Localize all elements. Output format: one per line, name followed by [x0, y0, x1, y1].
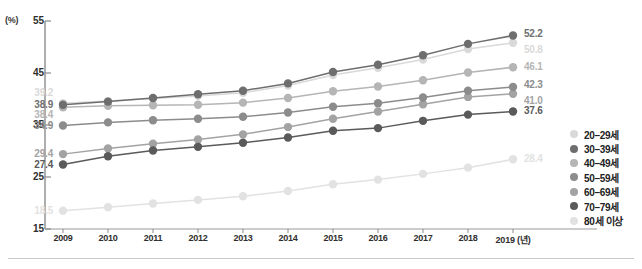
legend-color-swatch-icon: [570, 159, 578, 167]
series-start-value-label: 29.4: [17, 148, 53, 159]
data-point-marker: [419, 93, 427, 101]
footer-divider: [8, 258, 634, 259]
series-end-value-label: 50.8: [524, 44, 543, 55]
data-point-marker: [149, 199, 157, 207]
legend-item-label: 30–39세: [584, 141, 619, 156]
data-point-marker: [194, 90, 202, 98]
data-point-marker: [329, 180, 337, 188]
data-point-marker: [239, 192, 247, 200]
data-point-marker: [59, 150, 67, 158]
data-point-marker: [284, 79, 292, 87]
chart-plot-area: [0, 0, 642, 269]
data-point-marker: [104, 118, 112, 126]
data-point-marker: [194, 143, 202, 151]
series-start-value-label: 34.9: [17, 120, 53, 131]
legend-item-3[interactable]: 40–49세: [570, 156, 623, 170]
y-axis-tick-label: 45: [18, 67, 44, 78]
line-chart: (%) 5545352515 2009201020112012201320142…: [0, 0, 642, 269]
legend-item-label: 80세 이상: [584, 213, 623, 228]
data-point-marker: [509, 31, 517, 39]
data-point-marker: [239, 112, 247, 120]
data-point-marker: [329, 68, 337, 76]
legend-item-5[interactable]: 60–69세: [570, 185, 623, 199]
data-point-marker: [104, 144, 112, 152]
data-point-marker: [149, 94, 157, 102]
series-start-value-label: 39.2: [17, 87, 53, 98]
series-line: [63, 159, 513, 210]
series-start-value-label: 18.5: [17, 205, 53, 216]
legend-color-swatch-icon: [570, 173, 578, 181]
data-point-marker: [194, 101, 202, 109]
series-start-value-label: 27.4: [17, 159, 53, 170]
legend-color-swatch-icon: [570, 130, 578, 138]
series-end-value-label: 42.3: [524, 79, 543, 90]
data-point-marker: [59, 121, 67, 129]
data-point-marker: [194, 196, 202, 204]
data-point-marker: [419, 117, 427, 125]
series-end-value-label: 41.0: [524, 95, 543, 106]
legend-color-swatch-icon: [570, 145, 578, 153]
data-point-marker: [239, 130, 247, 138]
data-point-marker: [284, 133, 292, 141]
series-end-value-label: 37.6: [524, 105, 543, 116]
series-end-value-label: 46.1: [524, 61, 543, 72]
data-point-marker: [149, 101, 157, 109]
data-point-marker: [509, 155, 517, 163]
data-point-marker: [374, 124, 382, 132]
legend-item-6[interactable]: 70–79세: [570, 199, 623, 213]
data-point-marker: [374, 82, 382, 90]
legend-item-label: 40–49세: [584, 155, 619, 170]
legend-color-swatch-icon: [570, 188, 578, 196]
legend-item-label: 20–29세: [584, 127, 619, 142]
data-point-marker: [329, 87, 337, 95]
data-point-marker: [464, 163, 472, 171]
data-point-marker: [149, 146, 157, 154]
legend-item-label: 60–69세: [584, 184, 619, 199]
series-start-value-label: 38.9: [17, 99, 53, 110]
data-point-marker: [329, 115, 337, 123]
data-point-marker: [464, 40, 472, 48]
data-point-marker: [194, 115, 202, 123]
data-point-marker: [374, 99, 382, 107]
data-point-marker: [284, 187, 292, 195]
data-point-marker: [104, 203, 112, 211]
data-point-marker: [374, 107, 382, 115]
legend-item-7[interactable]: 80세 이상: [570, 213, 623, 227]
data-point-marker: [419, 76, 427, 84]
legend-item-label: 50–59세: [584, 170, 619, 185]
data-point-marker: [329, 103, 337, 111]
legend-item-4[interactable]: 50–59세: [570, 170, 623, 184]
legend-color-swatch-icon: [570, 202, 578, 210]
data-point-marker: [464, 86, 472, 94]
x-axis-tick-label: 2019 (년): [485, 233, 541, 246]
data-point-marker: [104, 152, 112, 160]
data-point-marker: [329, 127, 337, 135]
legend-item-2[interactable]: 30–39세: [570, 141, 623, 155]
data-point-marker: [239, 138, 247, 146]
data-point-marker: [419, 170, 427, 178]
data-point-marker: [509, 39, 517, 47]
data-point-marker: [509, 107, 517, 115]
data-point-marker: [464, 68, 472, 76]
series-end-value-label: 52.2: [524, 28, 543, 39]
data-point-marker: [374, 175, 382, 183]
chart-legend: 20–29세30–39세40–49세50–59세60–69세70–79세80세 …: [570, 127, 623, 228]
data-point-marker: [284, 108, 292, 116]
data-point-marker: [284, 123, 292, 131]
data-point-marker: [59, 160, 67, 168]
data-point-marker: [149, 116, 157, 124]
legend-item-label: 70–79세: [584, 199, 619, 214]
series-end-value-label: 28.4: [524, 153, 543, 164]
data-point-marker: [59, 207, 67, 215]
data-point-marker: [239, 86, 247, 94]
data-point-marker: [284, 94, 292, 102]
data-point-marker: [509, 83, 517, 91]
y-axis-tick-label: 25: [18, 171, 44, 182]
legend-item-1[interactable]: 20–29세: [570, 127, 623, 141]
data-point-marker: [59, 101, 67, 109]
data-point-marker: [194, 135, 202, 143]
y-axis-tick-label: 55: [18, 15, 44, 26]
data-point-marker: [464, 110, 472, 118]
data-point-marker: [509, 63, 517, 71]
data-point-marker: [239, 98, 247, 106]
